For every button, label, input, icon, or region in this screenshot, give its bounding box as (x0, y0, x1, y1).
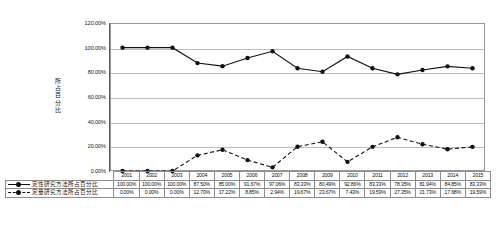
year-header-cell: 2007 (265, 172, 290, 181)
data-cell: 17.68% (440, 189, 465, 198)
data-cell: 8.85% (239, 189, 264, 198)
series-1 (120, 45, 474, 76)
data-cell: 83.33% (465, 180, 490, 189)
legend-entry-2[interactable]: 定量研究方法所占百分比 (6, 189, 114, 198)
data-cell: 2.94% (265, 189, 290, 198)
data-cell: 85.00% (214, 180, 239, 189)
data-cell: 100.00% (139, 180, 164, 189)
year-header-cell: 2015 (465, 172, 490, 181)
data-cell: 0.00% (164, 189, 189, 198)
data-cell: 87.50% (189, 180, 214, 189)
data-cell: 91.67% (239, 180, 264, 189)
year-header-cell: 2012 (390, 172, 415, 181)
chart-container: 所占百分比 120.00%100.00%80.00%60.00%40.00%20… (0, 0, 496, 234)
data-point (395, 72, 399, 76)
data-point (270, 165, 274, 169)
data-point (295, 145, 299, 149)
year-header-cell: 2008 (290, 172, 315, 181)
legend-dot-icon (16, 182, 21, 187)
data-cell: 19.67% (290, 189, 315, 198)
data-point (345, 54, 349, 58)
series-layer (110, 23, 485, 171)
series-2 (120, 135, 474, 173)
data-cell: 84.85% (440, 180, 465, 189)
data-point (370, 145, 374, 149)
data-point (120, 45, 124, 49)
data-cell: 27.35% (390, 189, 415, 198)
legend-marker-icon (8, 190, 30, 196)
data-cell: 23.67% (315, 189, 340, 198)
year-header-cell: 2005 (214, 172, 239, 181)
data-cell: 21.73% (415, 189, 440, 198)
legend-entry-1[interactable]: 定性研究方法所占百分比 (6, 180, 114, 189)
data-table: 2001200220032004200520062007200820092010… (5, 171, 491, 198)
y-axis-tick-label: 60.00% (62, 94, 106, 100)
data-point (320, 140, 324, 144)
data-point (470, 145, 474, 149)
data-cell: 78.35% (390, 180, 415, 189)
data-point (370, 66, 374, 70)
legend-label: 定量研究方法所占百分比 (32, 189, 98, 195)
year-header-cell: 2004 (189, 172, 214, 181)
data-cell: 0.00% (139, 189, 164, 198)
y-axis-tick-label: 40.00% (62, 119, 106, 125)
data-cell: 7.43% (340, 189, 365, 198)
data-point (295, 66, 299, 70)
data-point (195, 61, 199, 65)
legend-dot-icon (16, 190, 21, 195)
legend-label: 定性研究方法所占百分比 (32, 181, 98, 187)
data-cell: 80.49% (315, 180, 340, 189)
y-axis-tick-label: 80.00% (62, 69, 106, 75)
year-header-cell: 2011 (365, 172, 390, 181)
table-row: 定性研究方法所占百分比100.00%100.00%100.00%87.50%85… (6, 180, 491, 189)
data-point (470, 66, 474, 70)
table-row: 定量研究方法所占百分比0.00%0.00%0.00%12.70%17.22%8.… (6, 189, 491, 198)
data-point (320, 70, 324, 74)
year-header-cell: 2002 (139, 172, 164, 181)
data-point (445, 64, 449, 68)
table-header-row: 2001200220032004200520062007200820092010… (6, 172, 491, 181)
y-axis-tick-label: 100.00% (62, 45, 106, 51)
data-point (420, 68, 424, 72)
data-point (345, 160, 349, 164)
series-line (123, 137, 473, 171)
year-header-cell: 2013 (415, 172, 440, 181)
data-point (445, 147, 449, 151)
y-axis-tick-label: 120.00% (62, 20, 106, 26)
year-header-cell: 2009 (315, 172, 340, 181)
data-cell: 12.70% (189, 189, 214, 198)
data-point (220, 148, 224, 152)
data-point (195, 153, 199, 157)
year-header-cell: 2010 (340, 172, 365, 181)
data-point (220, 64, 224, 68)
data-cell: 81.94% (415, 180, 440, 189)
data-point (145, 45, 149, 49)
data-cell: 0.00% (114, 189, 139, 198)
data-point (420, 142, 424, 146)
data-point (270, 49, 274, 53)
data-point (245, 158, 249, 162)
table-corner-cell (6, 172, 114, 181)
data-cell: 100.00% (164, 180, 189, 189)
year-header-cell: 2001 (114, 172, 139, 181)
data-point (170, 45, 174, 49)
data-cell: 100.00% (114, 180, 139, 189)
data-cell: 17.22% (214, 189, 239, 198)
year-header-cell: 2003 (164, 172, 189, 181)
legend-marker-icon (8, 181, 30, 187)
y-axis-tick-label: 20.00% (62, 143, 106, 149)
y-axis-tick-labels: 120.00%100.00%80.00%60.00%40.00%20.00%0.… (60, 0, 106, 234)
data-cell: 19.59% (465, 189, 490, 198)
year-header-cell: 2014 (440, 172, 465, 181)
data-cell: 83.33% (290, 180, 315, 189)
year-header-cell: 2006 (239, 172, 264, 181)
data-cell: 92.86% (340, 180, 365, 189)
data-point (245, 56, 249, 60)
data-cell: 19.59% (365, 189, 390, 198)
data-cell: 97.06% (265, 180, 290, 189)
data-point (395, 135, 399, 139)
data-cell: 83.33% (365, 180, 390, 189)
